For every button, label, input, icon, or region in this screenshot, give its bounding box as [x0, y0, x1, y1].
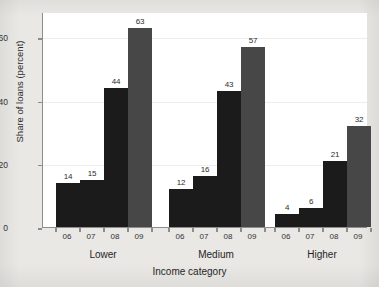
bar-medium-07[interactable]	[193, 176, 217, 227]
x-tick-label-higher-09: 09	[346, 232, 370, 241]
bar-group-lower: 14154463	[56, 13, 152, 227]
bar-lower-06[interactable]	[56, 183, 80, 227]
y-tick-label: 20	[0, 160, 8, 170]
bar-value-label: 63	[123, 17, 157, 26]
x-tick-label-lower-08: 08	[103, 232, 127, 241]
x-tick-label-lower-07: 07	[79, 232, 103, 241]
x-tick-mark	[151, 228, 153, 232]
bar-higher-07[interactable]	[299, 208, 323, 227]
y-tick-label: 60	[0, 33, 8, 43]
x-tick-label-medium-09: 09	[240, 232, 264, 241]
bar-medium-06[interactable]	[169, 189, 193, 227]
bar-group-medium: 12164357	[169, 13, 265, 227]
x-tick-label-medium-06: 06	[168, 232, 192, 241]
bar-value-label: 32	[342, 115, 376, 124]
x-axis-title: Income category	[0, 266, 379, 277]
bar-higher-06[interactable]	[275, 214, 299, 227]
x-tick-label-higher-08: 08	[322, 232, 346, 241]
group-label-medium: Medium	[156, 249, 276, 260]
x-tick-label-higher-07: 07	[298, 232, 322, 241]
bar-higher-09[interactable]	[347, 126, 371, 227]
chart-page: Share of loans (percent) 0204060 1415446…	[0, 0, 379, 287]
y-tick-label: 0	[0, 223, 8, 233]
x-tick-label-medium-08: 08	[216, 232, 240, 241]
bar-lower-07[interactable]	[80, 180, 104, 227]
y-axis-title: Share of loans (percent)	[14, 7, 25, 177]
x-tick-label-lower-09: 09	[127, 232, 151, 241]
x-tick-mark	[370, 228, 372, 232]
y-tick-mark-0	[38, 228, 42, 230]
bar-lower-09[interactable]	[128, 28, 152, 227]
x-tick-mark	[264, 228, 266, 232]
x-tick-label-medium-07: 07	[192, 232, 216, 241]
bar-medium-09[interactable]	[241, 47, 265, 227]
group-label-higher: Higher	[262, 249, 379, 260]
bar-series-container: 1415446312164357462132	[43, 13, 367, 227]
bar-lower-08[interactable]	[104, 88, 128, 227]
bar-higher-08[interactable]	[323, 161, 347, 227]
x-tick-label-higher-06: 06	[274, 232, 298, 241]
bar-group-higher: 462132	[275, 13, 371, 227]
bar-medium-08[interactable]	[217, 91, 241, 227]
bar-value-label: 57	[236, 36, 270, 45]
x-tick-label-lower-06: 06	[55, 232, 79, 241]
group-label-lower: Lower	[43, 249, 163, 260]
plot-area: 1415446312164357462132	[42, 13, 367, 228]
y-tick-label: 40	[0, 97, 8, 107]
